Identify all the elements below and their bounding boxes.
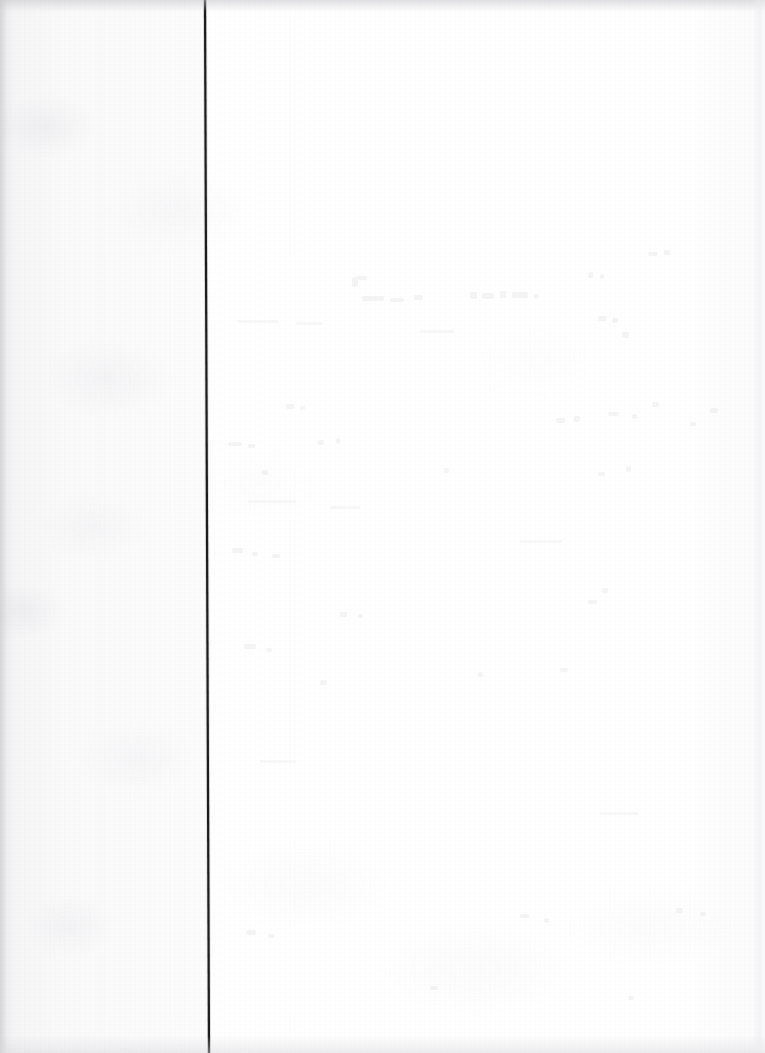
paper-grain-fine bbox=[0, 0, 765, 1053]
scanned-page bbox=[0, 0, 765, 1053]
